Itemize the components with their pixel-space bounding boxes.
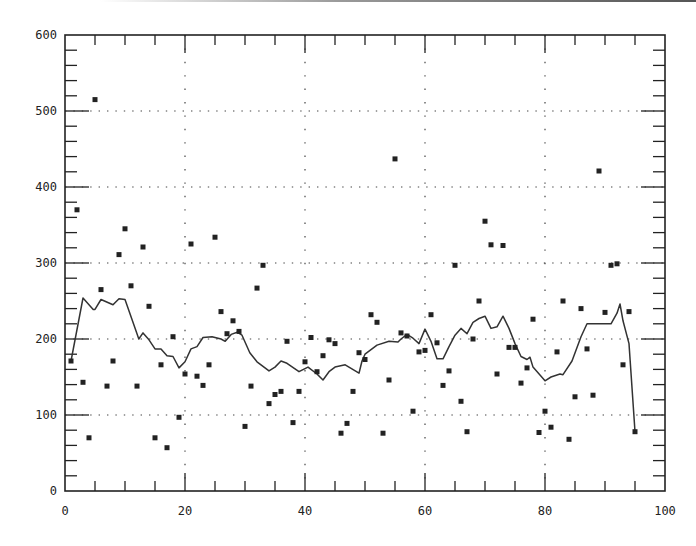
y-axis-labels: 0100200300400500600 [35,28,57,498]
data-point [231,318,236,323]
data-point [453,263,458,268]
data-point [159,362,164,367]
data-point [141,245,146,250]
data-point [255,286,260,291]
data-point [237,329,242,334]
data-point [243,424,248,429]
data-point [633,429,638,434]
y-tick-label: 400 [35,180,57,194]
plot-frame [65,35,665,491]
data-point [195,374,200,379]
data-point [273,392,278,397]
y-tick-label: 200 [35,332,57,346]
data-point [429,312,434,317]
data-point [279,389,284,394]
data-point [519,381,524,386]
data-point [399,330,404,335]
data-point [87,435,92,440]
data-point [189,242,194,247]
data-point [129,283,134,288]
data-point [213,235,218,240]
data-point [261,263,266,268]
data-point [465,429,470,434]
data-point [351,389,356,394]
data-point [153,435,158,440]
data-point [627,309,632,314]
data-point [441,383,446,388]
data-point [249,384,254,389]
moving-average-line [71,298,635,432]
data-point [363,357,368,362]
x-tick-label: 40 [298,504,312,518]
data-point [333,341,338,346]
data-point [423,348,428,353]
data-point [219,309,224,314]
data-point [99,287,104,292]
data-point [303,359,308,364]
x-tick-label: 0 [61,504,68,518]
data-point [75,207,80,212]
data-point [183,372,188,377]
x-tick-label: 60 [418,504,432,518]
data-point [297,389,302,394]
data-point [591,393,596,398]
data-point [561,299,566,304]
data-point [579,306,584,311]
data-point [405,334,410,339]
data-point [459,399,464,404]
data-point [513,345,518,350]
data-point [411,409,416,414]
data-point [435,340,440,345]
data-point [171,334,176,339]
data-point [225,331,230,336]
y-tick-label: 600 [35,28,57,42]
data-point [285,339,290,344]
data-point [483,219,488,224]
data-point [339,431,344,436]
data-point [69,359,74,364]
data-point [603,310,608,315]
data-point [201,383,206,388]
data-point [507,345,512,350]
data-point [447,368,452,373]
data-point [393,156,398,161]
scatter-points [69,97,638,450]
x-tick-label: 80 [538,504,552,518]
data-point [309,335,314,340]
data-point [417,349,422,354]
data-point [477,299,482,304]
data-point [609,263,614,268]
y-tick-label: 300 [35,256,57,270]
data-point [537,430,542,435]
data-point [135,384,140,389]
x-tick-label: 100 [654,504,676,518]
data-point [597,169,602,174]
data-point [555,349,560,354]
data-point [315,369,320,374]
data-point [489,242,494,247]
data-point [123,226,128,231]
data-point [471,337,476,342]
data-point [369,312,374,317]
data-point [111,359,116,364]
x-axis-labels: 020406080100 [61,504,675,518]
data-point [267,401,272,406]
grid-lines [65,35,665,491]
data-point [207,362,212,367]
data-point [105,384,110,389]
scatter-chart: 0100200300400500600 020406080100 [0,0,696,546]
data-point [147,304,152,309]
data-point [531,317,536,322]
y-tick-label: 100 [35,408,57,422]
data-point [501,243,506,248]
data-point [543,409,548,414]
data-point [357,350,362,355]
axis-ticks [65,35,665,491]
data-point [375,320,380,325]
x-tick-label: 20 [178,504,192,518]
data-point [345,421,350,426]
data-point [291,420,296,425]
data-point [615,261,620,266]
data-point [177,415,182,420]
data-point [321,353,326,358]
